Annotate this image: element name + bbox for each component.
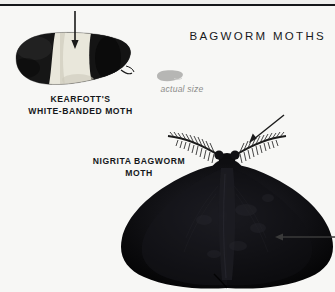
page-title: BAGWORM MOTHS xyxy=(189,30,326,42)
header-rule xyxy=(0,4,335,6)
moth-leg-secondary xyxy=(126,66,134,72)
caption-line-1: KEARFOTT'S xyxy=(0,93,161,105)
caption-kearfotts-white-banded-moth: KEARFOTT'S WHITE-BANDED MOTH xyxy=(0,93,161,117)
caption-line-1: NIGRITA BAGWORM xyxy=(82,155,196,167)
moth-wings xyxy=(121,164,333,289)
caption-line-2: WHITE-BANDED MOTH xyxy=(0,105,161,117)
caption-line-2: MOTH xyxy=(82,167,196,179)
pointer-arrow-white-band xyxy=(62,10,90,52)
specimen-nigrita-bagworm-moth xyxy=(118,128,335,292)
illustration-page: BAGWORM MOTHS xyxy=(0,0,335,292)
pointer-arrow-antenna xyxy=(240,112,294,152)
moth-leg xyxy=(121,70,132,74)
moth-abdomen xyxy=(219,168,235,280)
caption-nigrita-bagworm-moth: NIGRITA BAGWORM MOTH xyxy=(82,155,196,179)
pointer-arrow-wing xyxy=(270,228,335,246)
actual-size-label: actual size xyxy=(147,84,217,94)
moth-silhouette-icon xyxy=(155,69,184,82)
